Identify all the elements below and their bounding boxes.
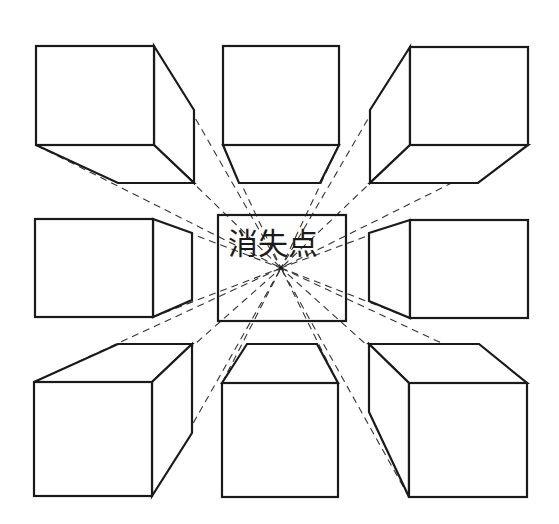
- cube-bottom-right: [369, 344, 527, 497]
- cube-middle-left: [35, 219, 192, 317]
- cube-top-right: [370, 47, 528, 183]
- cube-middle-right: [369, 220, 528, 318]
- perspective-diagram: 消失点: [0, 0, 559, 524]
- cube-bottom-middle: [222, 344, 338, 497]
- cube-top-middle: [223, 46, 339, 183]
- vanishing-point-marker: [279, 266, 283, 270]
- vanishing-point-label: 消失点: [228, 229, 318, 259]
- cube-top-left: [36, 46, 194, 183]
- diagram-canvas: [0, 0, 559, 524]
- cube-bottom-left: [34, 344, 192, 496]
